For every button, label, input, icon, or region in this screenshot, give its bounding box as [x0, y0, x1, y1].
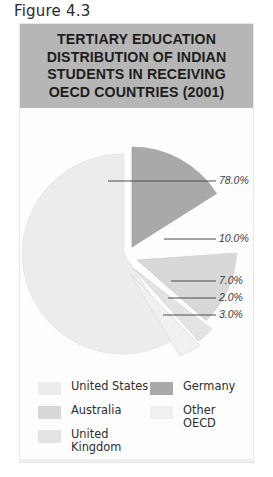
figure-caption: Figure 4.3 — [14, 2, 90, 20]
legend-label: Australia — [71, 404, 121, 417]
legend-item-australia[interactable]: Australia — [38, 404, 148, 419]
pie-label-united-kingdom: 2.0% — [219, 291, 243, 303]
legend-item-united-states[interactable]: United States — [38, 380, 148, 395]
legend-label: Other OECD — [183, 404, 216, 429]
chart-title: TERTIARY EDUCATION DISTRIBUTION OF INDIA… — [20, 31, 253, 101]
chart-legend: United States Australia United Kingdom G… — [20, 370, 253, 462]
pie-chart-plot-area: 78.0% 10.0% 7.0% 2.0% 3.0% — [20, 108, 253, 370]
legend-swatch-icon — [150, 382, 173, 395]
pie-label-germany: 10.0% — [219, 232, 249, 244]
legend-label: United States — [71, 380, 148, 393]
pie-slice-germany[interactable] — [132, 147, 217, 247]
legend-item-united-kingdom[interactable]: United Kingdom — [38, 428, 148, 453]
legend-label: United Kingdom — [71, 428, 121, 453]
legend-swatch-icon — [150, 406, 173, 419]
legend-column-right: Germany Other OECD — [150, 380, 235, 438]
legend-swatch-icon — [38, 406, 61, 419]
legend-column-left: United States Australia United Kingdom — [38, 380, 148, 462]
legend-item-germany[interactable]: Germany — [150, 380, 235, 395]
pie-label-united-states: 78.0% — [219, 174, 249, 186]
chart-header: TERTIARY EDUCATION DISTRIBUTION OF INDIA… — [20, 24, 253, 108]
legend-item-other-oecd[interactable]: Other OECD — [150, 404, 235, 429]
pie-label-other-oecd: 3.0% — [219, 308, 243, 320]
card-bottom-edge — [20, 459, 253, 462]
legend-swatch-icon — [38, 382, 61, 395]
legend-label: Germany — [183, 380, 235, 393]
figure-card: TERTIARY EDUCATION DISTRIBUTION OF INDIA… — [20, 24, 253, 462]
legend-swatch-icon — [38, 430, 61, 443]
pie-label-australia: 7.0% — [219, 274, 243, 286]
